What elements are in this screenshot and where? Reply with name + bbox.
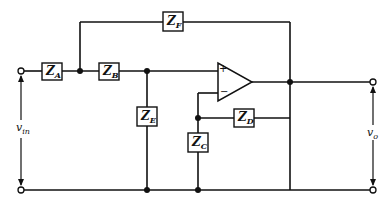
junction-dot [195, 115, 201, 121]
opamp-plus-sign: + [219, 63, 227, 74]
input-terminal-bottom [18, 187, 24, 193]
label-vin: vin [16, 121, 30, 136]
arrow-down-icon [370, 179, 376, 186]
label-ZF: ZF [167, 14, 181, 30]
arrow-up-icon [370, 86, 376, 93]
output-terminal-bottom [370, 187, 376, 193]
label-ZB: ZB [103, 64, 119, 80]
input-terminal-top [18, 68, 24, 74]
arrow-down-icon [18, 179, 24, 186]
label-vo: vo [367, 126, 378, 141]
opamp-minus-sign: − [220, 86, 228, 97]
label-ZC: ZC [192, 135, 207, 151]
junction-dot [287, 79, 293, 85]
arrow-up-icon [18, 75, 24, 82]
junction-dot [195, 187, 201, 193]
junction-dot [144, 187, 150, 193]
circuit-diagram [0, 0, 386, 206]
label-ZE: ZE [141, 109, 156, 125]
label-ZA: ZA [46, 64, 61, 80]
label-ZD: ZD [238, 110, 254, 126]
output-terminal-top [370, 79, 376, 85]
junction-dot [77, 68, 83, 74]
junction-dot [144, 68, 150, 74]
